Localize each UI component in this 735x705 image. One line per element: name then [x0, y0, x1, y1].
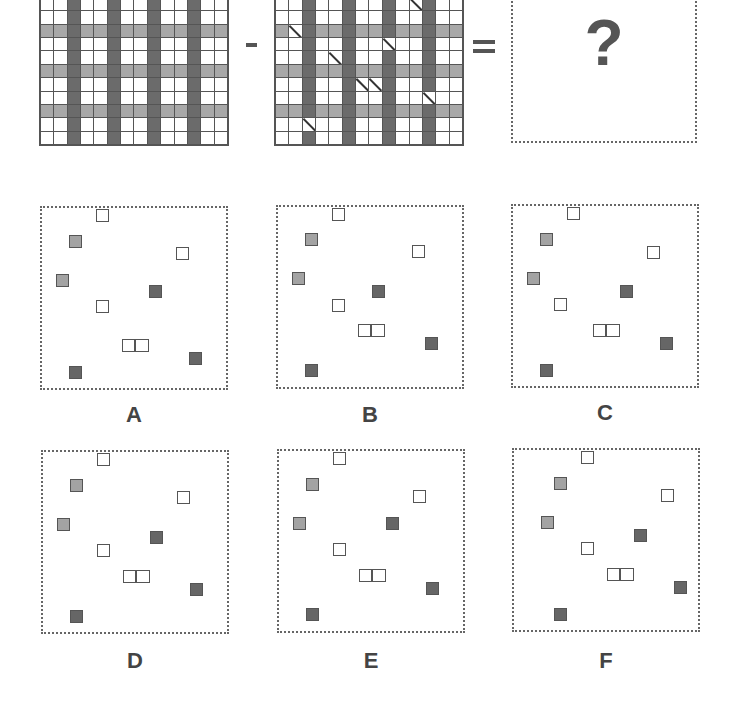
grid-cell: [303, 65, 315, 77]
option-d-panel[interactable]: [41, 450, 229, 634]
puzzle-grid-1: [39, 0, 229, 146]
option-c-label[interactable]: C: [585, 400, 625, 426]
grid-cell: [369, 0, 381, 10]
grid-cell: [436, 132, 448, 144]
gray-square-shape: [305, 233, 318, 246]
double-square-shape: [122, 339, 149, 352]
grid-cell: [134, 118, 146, 130]
grid-cell: [94, 0, 106, 10]
dark-square-shape: [372, 285, 385, 298]
grid-cell: [450, 25, 462, 37]
grid-cell: [68, 0, 80, 10]
dark-square-shape: [190, 583, 203, 596]
grid-cell: [436, 25, 448, 37]
grid-cell: [276, 51, 288, 63]
grid-cell: [81, 0, 93, 10]
white-square-shape: [581, 451, 594, 464]
dark-square-shape: [305, 364, 318, 377]
grid-cell: [356, 78, 368, 90]
grid-cell: [188, 65, 200, 77]
grid-cell: [201, 78, 213, 90]
grid-cell: [108, 118, 120, 130]
grid-cell: [343, 38, 355, 50]
grid-cell: [276, 11, 288, 23]
grid-cell: [188, 105, 200, 117]
grid-cell: [201, 51, 213, 63]
option-b-label[interactable]: B: [350, 402, 390, 428]
grid-cell: [121, 11, 133, 23]
white-square-shape: [96, 300, 109, 313]
grid-cell: [134, 38, 146, 50]
grid-cell: [303, 132, 315, 144]
grid-cell: [316, 132, 328, 144]
grid-cell: [450, 132, 462, 144]
grid-cell: [148, 105, 160, 117]
dark-square-shape: [150, 531, 163, 544]
grid-cell: [436, 105, 448, 117]
grid-cell: [54, 25, 66, 37]
grid-cell: [201, 11, 213, 23]
grid-cell: [303, 51, 315, 63]
white-square-shape: [412, 245, 425, 258]
grid-cell: [423, 132, 435, 144]
grid-cell: [316, 25, 328, 37]
grid-cell: [289, 25, 301, 37]
option-d-label[interactable]: D: [115, 648, 155, 674]
grid-cell: [201, 118, 213, 130]
option-e-label[interactable]: E: [351, 648, 391, 674]
gray-square-shape: [306, 478, 319, 491]
option-f-panel[interactable]: [512, 448, 700, 632]
white-square-shape: [581, 542, 594, 555]
option-b-panel[interactable]: [276, 205, 464, 389]
grid-cell: [369, 78, 381, 90]
grid-cell: [188, 78, 200, 90]
grid-cell: [188, 118, 200, 130]
option-a-label[interactable]: A: [114, 402, 154, 428]
grid-cell: [215, 38, 227, 50]
grid-cell: [161, 11, 173, 23]
grid-cell: [161, 118, 173, 130]
white-square-shape: [333, 543, 346, 556]
grid-cell: [329, 51, 341, 63]
grid-cell: [410, 65, 422, 77]
grid-cell: [436, 78, 448, 90]
grid-cell: [450, 0, 462, 10]
option-c-panel[interactable]: [511, 204, 699, 388]
dark-square-shape: [540, 364, 553, 377]
grid-cell: [383, 105, 395, 117]
grid-cell: [436, 11, 448, 23]
grid-cell: [383, 11, 395, 23]
grid-cell: [121, 78, 133, 90]
option-a-panel[interactable]: [40, 206, 228, 390]
grid-cell: [81, 38, 93, 50]
option-e-panel[interactable]: [277, 449, 465, 633]
grid-cell: [148, 0, 160, 10]
grid-cell: [108, 38, 120, 50]
grid-cell: [201, 92, 213, 104]
grid-cell: [343, 132, 355, 144]
grid-cell: [175, 0, 187, 10]
gray-square-shape: [57, 518, 70, 531]
grid-cell: [423, 38, 435, 50]
grid-cell: [356, 132, 368, 144]
grid-cell: [289, 51, 301, 63]
grid-cell: [215, 25, 227, 37]
grid-cell: [215, 0, 227, 10]
grid-cell: [303, 78, 315, 90]
grid-cell: [343, 65, 355, 77]
grid-cell: [134, 25, 146, 37]
grid-cell: [134, 11, 146, 23]
grid-cell: [41, 105, 53, 117]
grid-cell: [369, 38, 381, 50]
grid-cell: [289, 0, 301, 10]
grid-cell: [396, 92, 408, 104]
option-f-label[interactable]: F: [586, 648, 626, 674]
grid-cell: [68, 92, 80, 104]
white-square-shape: [333, 452, 346, 465]
grid-cell: [108, 0, 120, 10]
grid-cell: [396, 132, 408, 144]
gray-square-shape: [292, 272, 305, 285]
puzzle-grid-2: [274, 0, 464, 146]
gray-square-shape: [293, 517, 306, 530]
grid-cell: [121, 92, 133, 104]
